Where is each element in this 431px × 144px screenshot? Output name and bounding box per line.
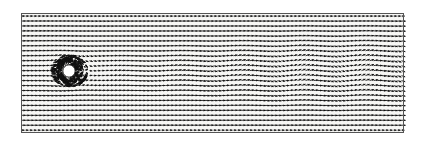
figure-root [0, 0, 431, 144]
domain-frame-overlay [0, 0, 431, 144]
computational-domain-border [22, 14, 404, 133]
